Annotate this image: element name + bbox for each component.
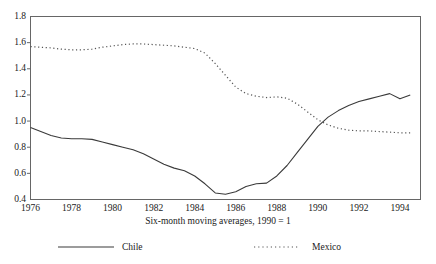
x-tick-label: 1980: [93, 203, 133, 213]
y-tick-label: 1.8: [2, 11, 26, 21]
x-tick-label: 1988: [257, 203, 297, 213]
chart-figure: 0.40.60.81.01.21.41.61.8 197619781980198…: [0, 0, 436, 264]
legend-label-chile: Chile: [122, 242, 143, 252]
x-tick-label: 1984: [175, 203, 215, 213]
x-tick-label: 1990: [298, 203, 338, 213]
x-tick-label: 1982: [134, 203, 174, 213]
axis-caption: Six-month moving averages, 1990 = 1: [0, 216, 436, 226]
x-tick-label: 1994: [380, 203, 420, 213]
y-tick-label: 1.0: [2, 116, 26, 126]
legend-label-mexico: Mexico: [312, 242, 341, 252]
x-tick-label: 1992: [339, 203, 379, 213]
x-tick-label: 1978: [52, 203, 92, 213]
y-tick-label: 1.2: [2, 89, 26, 99]
y-tick-label: 0.6: [2, 168, 26, 178]
y-tick-label: 0.8: [2, 142, 26, 152]
legend-swatch-dotted-line-icon: [248, 242, 304, 252]
x-tick-label: 1986: [216, 203, 256, 213]
legend-swatch-solid-line-icon: [58, 242, 114, 252]
legend-entry-chile: Chile: [58, 240, 143, 254]
y-tick-label: 1.4: [2, 63, 26, 73]
x-tick-label: 1976: [11, 203, 51, 213]
legend-entry-mexico: Mexico: [248, 240, 341, 254]
chart-legend: Chile Mexico: [0, 240, 436, 258]
y-tick-label: 1.6: [2, 37, 26, 47]
